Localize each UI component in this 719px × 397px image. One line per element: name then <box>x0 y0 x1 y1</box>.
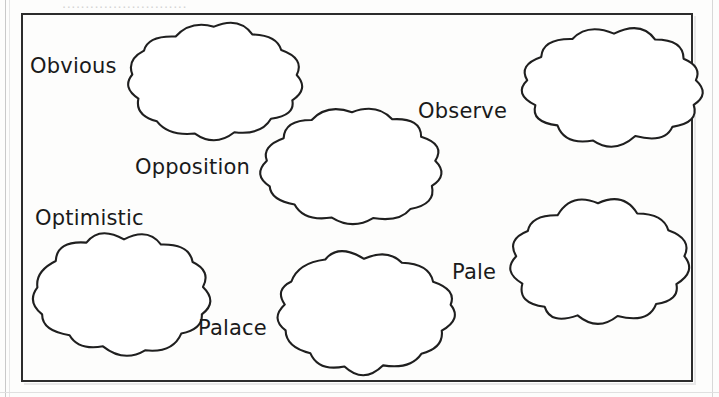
cloud-word-frame <box>21 13 693 382</box>
worksheet-page: ........................... ObviousOppos… <box>0 0 719 397</box>
page-edge-line-left-2 <box>9 0 10 397</box>
cut-off-header-text: ........................... <box>62 0 322 8</box>
word-label-obvious: Obvious <box>30 54 117 78</box>
word-label-opposition: Opposition <box>135 155 250 179</box>
page-edge-line-bottom <box>0 392 719 393</box>
page-edge-line-left <box>5 0 6 397</box>
page-edge-line-right <box>712 0 713 397</box>
word-label-palace: Palace <box>198 316 267 340</box>
word-label-observe: Observe <box>418 99 507 123</box>
word-label-optimistic: Optimistic <box>35 206 144 230</box>
word-label-pale: Pale <box>452 260 496 284</box>
